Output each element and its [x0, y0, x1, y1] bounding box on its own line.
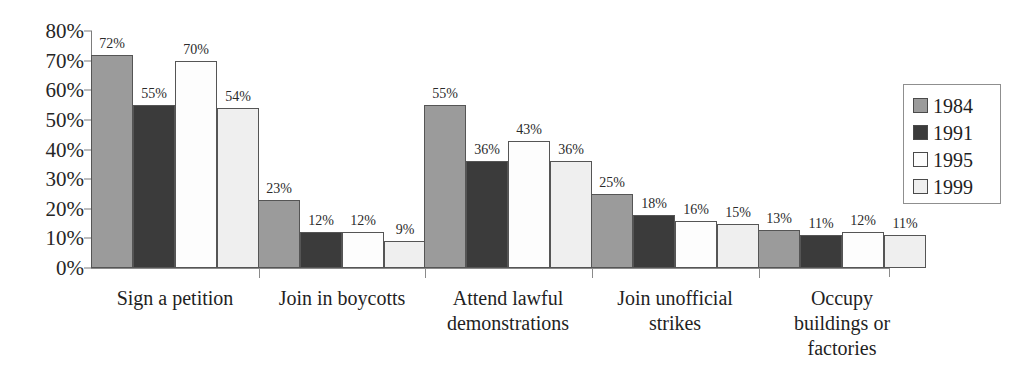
y-axis-tick-label: 0%	[56, 258, 84, 279]
legend-swatch-icon	[913, 125, 928, 140]
legend-item[interactable]: 1995	[913, 146, 1000, 173]
legend-label: 1999	[933, 177, 973, 197]
bar	[466, 161, 508, 268]
bar	[258, 200, 300, 268]
bar	[884, 235, 926, 268]
bar-chart: 0%10%20%30%40%50%60%70%80% 72%55%70%54%2…	[0, 0, 1012, 386]
bar-value-label: 23%	[251, 182, 307, 196]
y-axis-tick-label: 50%	[46, 109, 85, 130]
legend-label: 1991	[933, 123, 973, 143]
bar-group: 72%55%70%54%	[91, 31, 259, 268]
bar-group: 55%36%43%36%	[424, 31, 592, 268]
x-axis-group-separator-tick	[259, 269, 260, 278]
bar-group: 23%12%12%9%	[258, 31, 426, 268]
bar-value-label: 25%	[584, 176, 640, 190]
x-axis-category-label-line: Occupy	[742, 286, 942, 311]
x-axis-group-separator-tick	[759, 269, 760, 278]
y-axis-tick-label: 70%	[46, 50, 85, 71]
bar-value-label: 55%	[417, 87, 473, 101]
legend-swatch-icon	[913, 98, 928, 113]
bar	[133, 105, 175, 268]
bar	[508, 141, 550, 268]
bar	[758, 230, 800, 269]
x-axis-line	[91, 268, 890, 269]
bar-value-label: 43%	[501, 123, 557, 137]
legend-swatch-icon	[913, 179, 928, 194]
bar-value-label: 72%	[84, 37, 140, 51]
bar-value-label: 36%	[459, 143, 515, 157]
x-axis-category-label: Occupybuildings orfactories	[742, 286, 942, 361]
bar	[800, 235, 842, 268]
bar	[842, 232, 884, 268]
legend-item[interactable]: 1991	[913, 119, 1000, 146]
y-axis-tick-label: 60%	[46, 80, 85, 101]
plot-area: 72%55%70%54%23%12%12%9%55%36%43%36%25%18…	[91, 31, 890, 268]
y-axis-tick-label: 10%	[46, 228, 85, 249]
bar-group: 25%18%16%15%	[591, 31, 759, 268]
legend: 1984199119951999	[903, 84, 1001, 204]
legend-item[interactable]: 1984	[913, 92, 1000, 119]
bar	[384, 241, 426, 268]
y-axis-tick-label: 80%	[46, 21, 85, 42]
bar-value-label: 70%	[168, 43, 224, 57]
legend-swatch-icon	[913, 152, 928, 167]
legend-item[interactable]: 1999	[913, 173, 1000, 200]
bar	[342, 232, 384, 268]
y-axis-tick-label: 40%	[46, 139, 85, 160]
x-axis-end-tick	[889, 268, 890, 277]
bar	[717, 224, 759, 268]
legend-label: 1984	[933, 96, 973, 116]
x-axis-group-separator-tick	[425, 269, 426, 278]
bar	[675, 221, 717, 268]
bar-value-label: 55%	[126, 87, 182, 101]
bar	[300, 232, 342, 268]
y-axis-tick-label: 20%	[46, 198, 85, 219]
x-axis-category-label-line: buildings or	[742, 311, 942, 336]
bar-group: 13%11%12%11%	[758, 31, 926, 268]
x-axis-category-label-line: factories	[742, 336, 942, 361]
y-axis-tick-label: 30%	[46, 169, 85, 190]
bar-value-label: 11%	[877, 217, 933, 231]
bar	[633, 215, 675, 268]
bar	[424, 105, 466, 268]
x-axis-group-separator-tick	[592, 269, 593, 278]
legend-label: 1995	[933, 150, 973, 170]
